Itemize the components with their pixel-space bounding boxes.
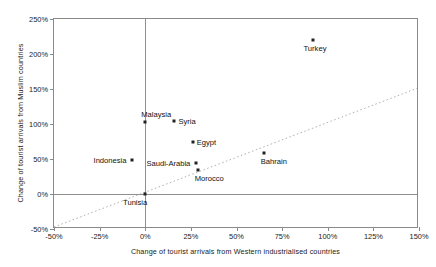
y-tick-label: 150% (29, 85, 48, 94)
data-point-malaysia[interactable] (144, 120, 147, 123)
x-tick-label: 100% (318, 232, 337, 241)
y-tick-label: 50% (33, 155, 48, 164)
data-point-saudi-arabia[interactable] (195, 162, 198, 165)
data-point-turkey[interactable] (312, 39, 315, 42)
x-tick-label: -50% (45, 232, 62, 241)
x-tick-mark (54, 227, 55, 231)
data-point-label-malaysia: Malaysia (141, 110, 171, 119)
x-tick-mark (145, 227, 146, 231)
data-point-label-egypt: Egypt (197, 138, 216, 147)
x-tick-label: 75% (275, 232, 290, 241)
y-tick-label: 250% (29, 15, 48, 24)
x-tick-label: 125% (364, 232, 383, 241)
plot-area: -50%0%50%100%150%200%250%-50%-25%0%25%50… (53, 18, 418, 228)
data-points: TurkeyMalaysiaSyriaEgyptBahrainSaudi-Ara… (54, 19, 417, 227)
data-point-label-turkey: Turkey (304, 44, 327, 53)
data-point-label-indonesia: Indonesia (94, 156, 127, 165)
x-axis-title: Change of tourist arrivals from Western … (53, 247, 418, 256)
scatter-chart-figure: Change of tourist arrivals from Muslim c… (0, 0, 436, 267)
x-tick-mark (328, 227, 329, 231)
x-tick-label: 150% (410, 232, 429, 241)
y-axis-title: Change of tourist arrivals from Muslim c… (14, 18, 28, 228)
x-tick-mark (100, 227, 101, 231)
x-tick-mark (191, 227, 192, 231)
data-point-label-bahrain: Bahrain (261, 157, 287, 166)
data-point-bahrain[interactable] (262, 152, 265, 155)
data-point-label-syria: Syria (178, 117, 195, 126)
x-tick-label: 25% (183, 232, 198, 241)
y-tick-label: 100% (29, 120, 48, 129)
data-point-syria[interactable] (173, 120, 176, 123)
y-tick-label: 200% (29, 50, 48, 59)
x-tick-mark (373, 227, 374, 231)
x-tick-mark (282, 227, 283, 231)
x-tick-label: 0% (140, 232, 151, 241)
x-tick-mark (419, 227, 420, 231)
data-point-label-morocco: Morocco (195, 174, 224, 183)
data-point-egypt[interactable] (191, 141, 194, 144)
x-tick-label: -25% (91, 232, 108, 241)
y-tick-label: 0% (37, 190, 48, 199)
data-point-indonesia[interactable] (131, 159, 134, 162)
data-point-tunisia[interactable] (144, 193, 147, 196)
x-tick-mark (237, 227, 238, 231)
data-point-label-tunisia: Tunisia (123, 198, 147, 207)
x-tick-label: 50% (229, 232, 244, 241)
data-point-label-saudi-arabia: Saudi-Arabia (146, 159, 190, 168)
data-point-morocco[interactable] (197, 168, 200, 171)
